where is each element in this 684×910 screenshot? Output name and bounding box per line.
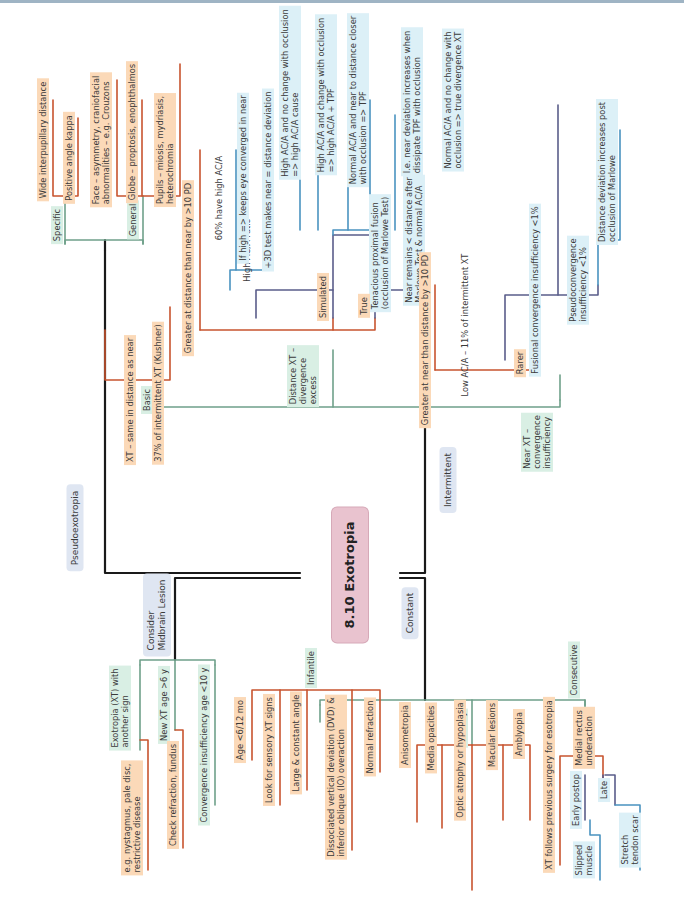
item-greater-at-distance: Greater at distance than near by >10 PD [182,180,194,356]
item-pupils: Pupils – miosis, mydriasis, heterochromi… [154,93,176,207]
line-root-to-midbrain [175,578,300,660]
line-distance-branches [200,318,375,330]
line-intermittent-subtypes [155,400,560,407]
item-anisometropia: Anisometropia [399,702,411,768]
item-optic-atrophy: Optic atrophy or hypoplasia [454,699,466,820]
item-eg-nystagmus: e.g. nystagmus, pale disc, restrictive d… [121,761,143,876]
item-macular-lesions: Macular lesions [486,700,498,770]
item-media-opacities: Media opacities [425,703,437,774]
item-new-xt-age: New XT age >6 y [158,666,170,744]
item-sensory-signs: Look for sensory XT signs [263,694,275,806]
item-face: Face – asymmetry, craniofacial abnormali… [90,73,112,208]
item-plus3d: +3D test makes near = distance deviation [262,88,274,271]
node-consecutive: Consecutive [568,642,580,699]
item-medial-rectus: Medial rectus underaction [573,707,595,769]
item-large-constant-angle: Large & constant angle [290,692,302,795]
node-general: General [127,201,139,240]
item-xt-follows-surgery: XT follows previous surgery for esotropi… [543,697,555,873]
item-37-percent: 37% of intermittent XT (Kushner) [152,321,164,464]
item-if-high: If high => keeps eye converged in near [237,92,249,263]
item-normal-refraction: Normal refraction [364,698,376,777]
node-consider-midbrain: Consider Midbrain Lesion [143,574,171,657]
node-distance-xt: Distance XT – divergence excess [287,345,319,407]
item-check-refraction: Check refraction, fundus [167,741,179,849]
item-convergence-insufficiency-age: Convergence insufficiency age <10 y [198,665,210,826]
item-pseudoconvergence: Pseudoconvergence insufficiency <1% [567,235,589,324]
item-60-percent: 60% have high AC/A [213,153,225,244]
node-rarer: Rarer [514,349,526,377]
item-low-aca: Low AC/A – 11% of intermittent XT [459,251,471,400]
node-simulated: Simulated [317,273,329,321]
item-late: Late [598,778,610,802]
item-dvd-io: Dissociated vertical deviation (DVD) & i… [325,694,347,859]
node-infantile: Infantile [305,648,317,688]
node-true: True [358,294,370,318]
node-pseudoexotropia: Pseudoexotropia [67,485,84,572]
item-ie-near-deviation: I.e. near deviation increases when dissi… [401,28,423,177]
node-intermittent: Intermittent [440,447,457,513]
item-distance-deviation-increases: Distance deviation increases post occlus… [596,99,618,245]
node-near-xt: Near XT – convergence insufficiency [521,412,553,471]
item-age-6-12: Age <6/12 mo [234,697,246,763]
item-xt-same: XT – same in distance as near [124,335,136,465]
item-fusional-ci: Fusional convergence insufficiency <1% [529,203,541,376]
node-specific: Specific [51,206,63,244]
item-exotropia-another-sign: Exotropia (XT) with another sign [109,665,131,750]
item-amblyopia: Amblyopia [513,709,525,759]
item-positive-angle-kappa: Positive angle kappa [63,112,75,204]
item-stretch-tendon-scar: Stretch tendon scar [619,812,641,867]
item-greater-at-near: Greater at near than distance by >10 PD [419,252,431,428]
item-wide-interpupillary: Wide interpupillary distance [37,79,49,202]
item-high-aca-no-change: High AC/A and no change with occlusion =… [279,6,301,180]
node-constant: Constant [402,587,419,639]
item-globe: Globe – proptosis, enophthalmos [126,61,138,203]
item-high-aca-change: High AC/A and change with occlusion => h… [315,15,337,176]
node-tenacious-fusion: Tenacious proximal fusion (occlusion of … [369,194,391,312]
item-early-postop: Early postop [570,771,582,829]
root-node-title: 8.10 Exotropia [332,508,368,643]
item-slipped-muscle: Slipped muscle [573,842,595,879]
item-normal-aca-closer: Normal AC/A and near to distance closer … [347,13,369,187]
item-normal-aca-no-change: Normal AC/A and no change with occlusion… [442,28,464,171]
